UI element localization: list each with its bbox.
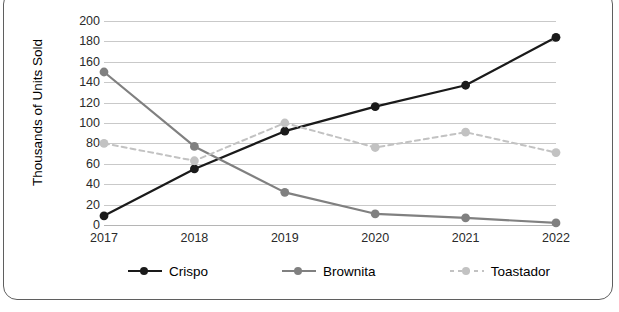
series-brownita (100, 68, 561, 228)
legend-swatch-icon (450, 265, 484, 277)
data-point (100, 68, 109, 77)
gridline (104, 225, 556, 226)
x-axis-tick-label: 2017 (69, 231, 139, 245)
legend-swatch-icon (128, 265, 162, 277)
data-point (280, 188, 289, 197)
data-point (190, 165, 199, 174)
data-point (190, 142, 199, 151)
y-axis-tick-label: 40 (56, 177, 100, 191)
y-axis-tick-label: 80 (56, 136, 100, 150)
legend-label: Brownita (323, 264, 376, 279)
legend-swatch-icon (282, 265, 316, 277)
y-axis-tick-label: 100 (56, 116, 100, 130)
data-point (461, 81, 470, 90)
data-point (280, 127, 289, 136)
x-axis-tick-label: 2020 (340, 231, 410, 245)
y-axis-title: Thousands of Units Sold (30, 13, 45, 213)
data-point (461, 128, 470, 137)
data-point (371, 143, 380, 152)
chart-legend: CrispoBrownitaToastador (104, 258, 556, 284)
data-point (371, 209, 380, 218)
y-axis-tick-label: 140 (56, 75, 100, 89)
x-axis-tick-labels: 201720182019202020212022 (104, 231, 556, 251)
x-axis-tick-label: 2022 (521, 231, 591, 245)
y-axis-tick-label: 120 (56, 96, 100, 110)
data-point (100, 139, 109, 148)
x-axis-tick-label: 2021 (431, 231, 501, 245)
data-point (552, 33, 561, 42)
chart-screenshot: Thousands of Units Sold 2001801601401201… (0, 0, 619, 312)
data-point (552, 148, 561, 157)
data-point (190, 156, 199, 165)
data-point (552, 219, 561, 228)
y-axis-tick-label: 20 (56, 198, 100, 212)
x-axis-tick-label: 2018 (159, 231, 229, 245)
y-axis-tick-label: 0 (56, 218, 100, 232)
legend-label: Toastador (491, 264, 550, 279)
line-chart: Thousands of Units Sold 2001801601401201… (0, 0, 619, 312)
x-axis-tick-label: 2019 (250, 231, 320, 245)
y-axis-tick-label: 60 (56, 157, 100, 171)
legend-item-brownita[interactable]: Brownita (282, 264, 376, 279)
y-axis-tick-label: 180 (56, 34, 100, 48)
data-point (371, 102, 380, 111)
y-axis-tick-labels: 200180160140120100806040200 (56, 14, 100, 230)
y-axis-tick-label: 200 (56, 14, 100, 28)
series-layer (104, 21, 556, 225)
legend-item-toastador[interactable]: Toastador (450, 264, 550, 279)
y-axis-tick-label: 160 (56, 55, 100, 69)
series-line (104, 72, 556, 223)
data-point (280, 119, 289, 128)
data-point (461, 213, 470, 222)
legend-item-crispo[interactable]: Crispo (128, 264, 208, 279)
legend-label: Crispo (169, 264, 208, 279)
data-point (100, 211, 109, 220)
